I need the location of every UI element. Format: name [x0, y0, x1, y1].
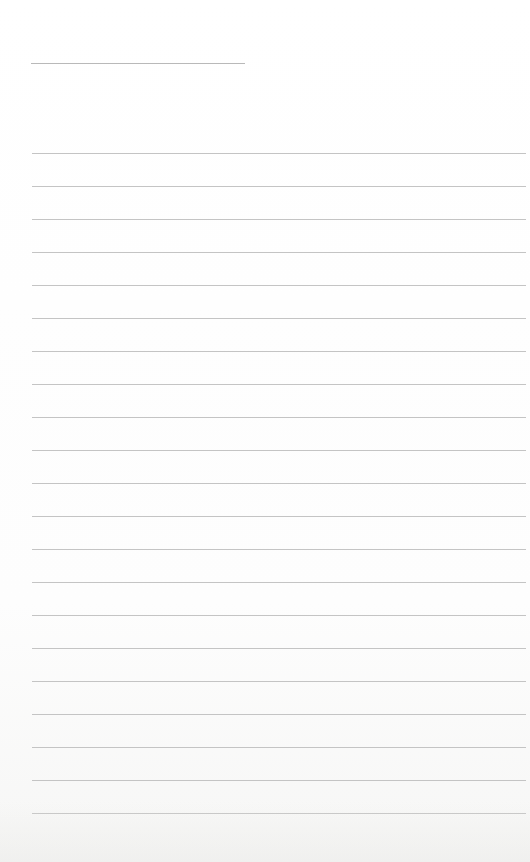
writing-line [32, 648, 526, 649]
writing-line [32, 285, 526, 286]
writing-line [32, 582, 526, 583]
writing-line [32, 153, 526, 154]
writing-line [32, 384, 526, 385]
writing-line [32, 252, 526, 253]
writing-line [32, 615, 526, 616]
writing-line [32, 681, 526, 682]
writing-lines-area [32, 0, 526, 862]
writing-line [32, 351, 526, 352]
writing-line [32, 714, 526, 715]
writing-line [32, 780, 526, 781]
writing-line [32, 417, 526, 418]
writing-line [32, 219, 526, 220]
lined-paper-page [0, 0, 530, 862]
writing-line [32, 318, 526, 319]
writing-line [32, 186, 526, 187]
writing-line [32, 483, 526, 484]
writing-line [32, 813, 526, 814]
writing-line [32, 747, 526, 748]
writing-line [32, 450, 526, 451]
writing-line [32, 549, 526, 550]
writing-line [32, 516, 526, 517]
